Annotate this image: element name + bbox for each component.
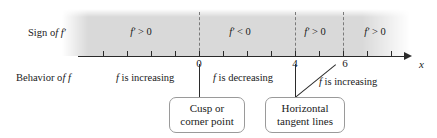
axis-tick [391, 51, 392, 57]
axis-tick [271, 51, 272, 57]
leader-line-cusp [199, 64, 200, 97]
row-label-behavior-of-f: Behavior of f [16, 72, 71, 83]
axis-tick [175, 51, 176, 57]
axis-tick [367, 51, 368, 57]
axis-tick [151, 51, 152, 57]
behavior-interval-label-3: f is increasing [319, 76, 377, 87]
dashed-divider-at-0 [199, 12, 200, 56]
sign-chart-figure: Sign of f′ Behavior of f f′ > 0 f′ < 0 f… [0, 0, 437, 138]
axis-tick [319, 51, 320, 57]
callout-cusp-line-1: Cusp or [177, 102, 237, 115]
sign-interval-label-2: f′ < 0 [205, 26, 275, 37]
callout-tangent-line-1: Horizontal [273, 102, 337, 115]
row-label-sign-of-f-prime: Sign of f′ [28, 27, 66, 38]
callout-horizontal-tangent-lines: Horizontal tangent lines [265, 97, 345, 133]
leader-line-tangent-vertical [295, 64, 296, 97]
axis-tick [127, 51, 128, 57]
axis-tick-label-6: 6 [337, 57, 353, 69]
dashed-divider-at-6 [343, 12, 344, 56]
callout-cusp-or-corner-point: Cusp or corner point [169, 97, 245, 133]
axis-tick [247, 51, 248, 57]
axis-tick [223, 51, 224, 57]
callout-tangent-line-2: tangent lines [273, 115, 337, 128]
sign-interval-label-3: f′ > 0 [284, 26, 346, 37]
axis-tick [103, 51, 104, 57]
dashed-divider-at-4 [295, 12, 296, 56]
axis-arrow-icon [404, 52, 412, 60]
behavior-interval-label-1: f is increasing [116, 72, 174, 83]
behavior-interval-label-2: f is decreasing [213, 72, 273, 83]
callout-cusp-line-2: corner point [177, 115, 237, 128]
sign-interval-label-1: f′ > 0 [106, 26, 176, 37]
sign-interval-label-4: f′ > 0 [344, 26, 406, 37]
axis-variable-label-x: x [419, 58, 424, 70]
